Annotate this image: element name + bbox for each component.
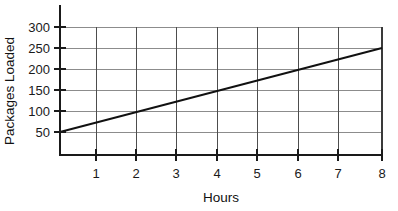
y-axis-tick-labels: 300 250 200 150 100 50 [28, 20, 50, 140]
x-tick-label-8: 8 [378, 166, 385, 181]
y-tick-label-100: 100 [28, 104, 50, 119]
x-tick-label-7: 7 [334, 166, 341, 181]
line-chart: 300 250 200 150 100 50 1 2 3 4 5 6 7 8 P… [0, 0, 398, 211]
x-tick-label-6: 6 [294, 166, 301, 181]
x-axis-tick-labels: 1 2 3 4 5 6 7 8 [92, 166, 385, 181]
plot-area-background [60, 27, 382, 155]
x-tick-label-3: 3 [172, 166, 179, 181]
x-tick-label-4: 4 [213, 166, 220, 181]
chart-canvas: 300 250 200 150 100 50 1 2 3 4 5 6 7 8 P… [0, 0, 398, 211]
y-tick-label-300: 300 [28, 20, 50, 35]
y-tick-label-200: 200 [28, 62, 50, 77]
y-tick-label-250: 250 [28, 41, 50, 56]
y-axis-title: Packages Loaded [2, 37, 17, 145]
y-tick-label-150: 150 [28, 83, 50, 98]
x-axis-title: Hours [203, 190, 239, 205]
x-tick-label-5: 5 [253, 166, 260, 181]
y-tick-label-50: 50 [36, 125, 50, 140]
x-tick-label-2: 2 [132, 166, 139, 181]
x-tick-label-1: 1 [92, 166, 99, 181]
